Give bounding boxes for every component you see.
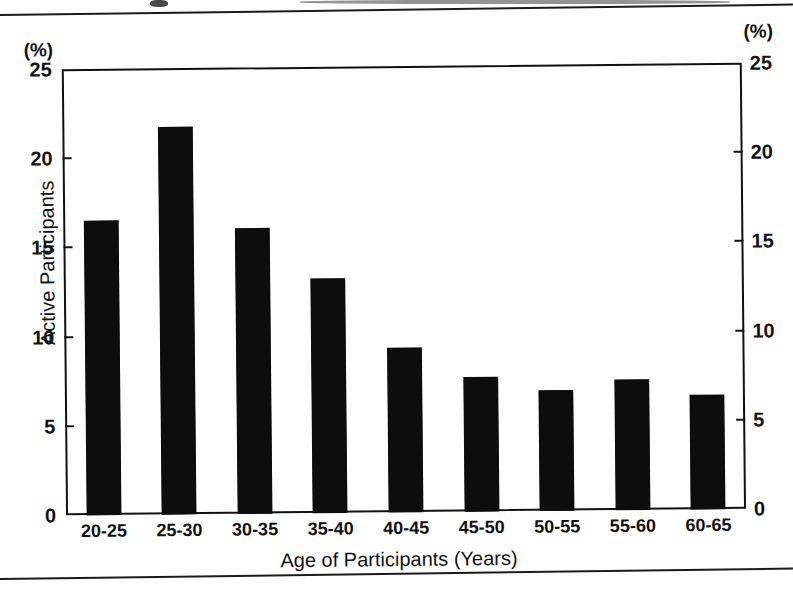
- bar: [690, 395, 725, 509]
- axis-layer: 00551010151520202525: [0, 0, 790, 4]
- x-axis-label: 50-55: [534, 516, 580, 537]
- bar-slot: [440, 65, 520, 512]
- bar-slot: [364, 66, 444, 513]
- y-tick-label-right: 5: [753, 409, 764, 429]
- bar: [311, 279, 347, 513]
- y-tick-label-left: 0: [45, 505, 56, 525]
- y-axis-unit-left: (%): [23, 39, 53, 61]
- bar: [614, 379, 649, 510]
- x-axis-title: Age of Participants (Years): [2, 544, 793, 575]
- y-tick-right: [734, 151, 743, 153]
- x-axis-labels: 20-2525-3030-3535-4040-4545-5050-5555-60…: [66, 515, 746, 548]
- x-axis-label: 40-45: [383, 518, 429, 539]
- bar-slot: [62, 69, 142, 516]
- bar: [84, 220, 121, 515]
- x-axis-label: 25-30: [156, 520, 202, 541]
- y-tick-left: [63, 247, 72, 249]
- y-tick-left: [64, 336, 73, 338]
- bar: [539, 391, 574, 511]
- y-tick-right: [734, 240, 743, 242]
- bar: [235, 228, 272, 514]
- y-tick-right: [736, 418, 745, 420]
- bar: [463, 377, 498, 511]
- x-axis-label: 20-25: [81, 521, 127, 542]
- y-tick-left: [65, 425, 74, 427]
- y-tick-label-left: 25: [29, 59, 51, 79]
- y-tick-label-left: 5: [44, 416, 55, 436]
- bar-slot: [515, 64, 595, 511]
- y-axis-unit-right: (%): [743, 20, 773, 42]
- y-tick-label-right: 25: [750, 52, 772, 72]
- bar-chart-figure: 00551010151520202525 (%) (%) Active Part…: [0, 0, 793, 589]
- bar: [159, 127, 197, 514]
- bars-layer: [62, 63, 746, 516]
- x-axis-label: 45-50: [459, 517, 505, 538]
- y-tick-label-right: 0: [754, 499, 765, 519]
- bar-slot: [591, 63, 671, 510]
- y-tick-left: [63, 157, 72, 159]
- y-tick-label-right: 15: [751, 231, 773, 251]
- x-axis-label: 60-65: [685, 515, 731, 536]
- y-tick-right: [735, 329, 744, 331]
- x-axis-label: 35-40: [308, 518, 354, 539]
- bar-slot: [213, 67, 293, 514]
- bar-slot: [288, 66, 368, 513]
- bar-slot: [666, 63, 746, 510]
- x-axis-label: 55-60: [610, 516, 656, 537]
- y-tick-label-right: 20: [750, 142, 772, 162]
- bar: [387, 348, 423, 512]
- bar-slot: [137, 68, 217, 515]
- y-axis-title: Active Participants: [35, 153, 60, 373]
- x-axis-label: 30-35: [232, 519, 278, 540]
- y-tick-label-right: 10: [752, 320, 774, 340]
